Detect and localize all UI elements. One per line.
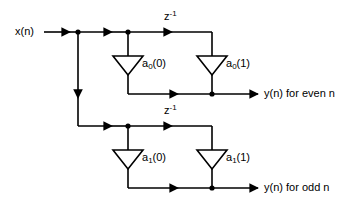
coefficient-label-a0-0: a0(0) [142,58,166,71]
coef-arg-a1-0: (0) [153,151,166,163]
multiplier-triangle-a1-0 [113,150,143,169]
coefficient-label-a1-1: a1(1) [226,152,250,165]
delay-label-bottom: z-1 [164,104,177,116]
flow-graph-canvas [0,0,354,207]
multiplier-triangle-a0-1 [197,56,227,75]
coef-arg-a1-1: (1) [237,151,250,163]
input-label: x(n) [15,26,34,37]
output-label-even: y(n) for even n [264,88,335,99]
coef-arg-a0-1: (1) [237,57,250,69]
output-label-odd: y(n) for odd n [264,182,329,193]
coefficient-label-a0-1: a0(1) [226,58,250,71]
signal-flow-diagram: x(n) z-1 z-1 a0(0) a0(1) a1(0) a1(1) y(n… [0,0,354,207]
coefficient-label-a1-0: a1(0) [142,152,166,165]
delay-label-top: z-1 [164,10,177,22]
multiplier-triangle-a1-1 [197,150,227,169]
multiplier-triangle-a0-0 [113,56,143,75]
coef-arg-a0-0: (0) [153,57,166,69]
delay-exponent-top: -1 [170,9,177,18]
delay-exponent-bottom: -1 [170,103,177,112]
